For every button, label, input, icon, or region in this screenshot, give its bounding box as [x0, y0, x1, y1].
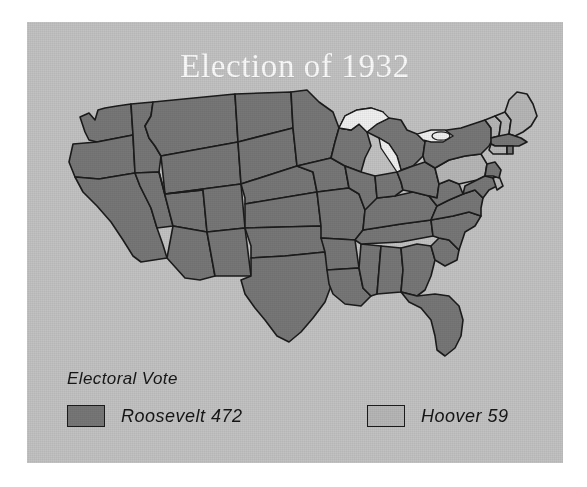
legend-rows: Roosevelt 472 Hoover 59 [67, 405, 537, 427]
legend-label-roosevelt: Roosevelt 472 [121, 406, 243, 427]
state-CT[interactable] [489, 144, 507, 154]
map-panel: Election of 1932 [27, 22, 563, 463]
us-map-svg [45, 80, 545, 380]
state-AR[interactable] [321, 238, 359, 270]
legend-item-roosevelt[interactable]: Roosevelt 472 [67, 405, 367, 427]
map-legend: Electoral Vote Roosevelt 472 Hoover 59 [67, 369, 537, 427]
state-RI[interactable] [507, 146, 513, 154]
legend-swatch-icon-hoover [367, 405, 405, 427]
legend-item-hoover[interactable]: Hoover 59 [367, 405, 509, 427]
state-AL[interactable] [377, 246, 403, 294]
state-FL[interactable] [401, 292, 463, 356]
lake-ontario [432, 132, 450, 140]
state-NJ[interactable] [485, 162, 501, 178]
state-MO[interactable] [317, 188, 365, 240]
legend-label-hoover: Hoover 59 [421, 406, 509, 427]
state-OR[interactable] [69, 135, 135, 179]
state-GA[interactable] [401, 244, 435, 296]
state-TX[interactable] [241, 252, 331, 342]
state-ME[interactable] [505, 92, 537, 136]
election-map-figure: Election of 1932 [0, 0, 587, 487]
legend-swatch-icon-roosevelt [67, 405, 105, 427]
state-NM[interactable] [207, 228, 251, 276]
legend-heading: Electoral Vote [67, 369, 537, 389]
us-electoral-map [45, 80, 545, 380]
